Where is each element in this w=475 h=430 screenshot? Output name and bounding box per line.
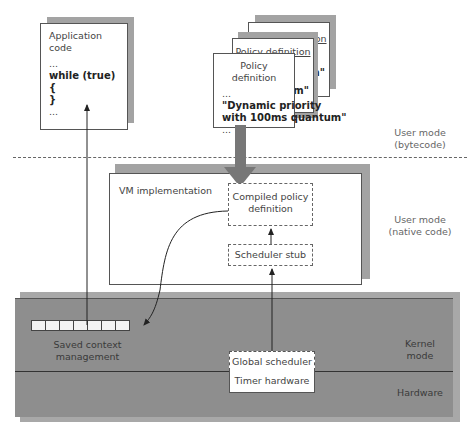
arrow-to-saved-context bbox=[144, 211, 228, 325]
connectors bbox=[0, 0, 475, 430]
